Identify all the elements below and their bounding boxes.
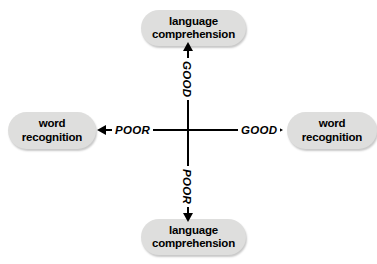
node-word-recognition-left: word recognition [8,112,96,149]
node-bottom-line1: language [152,224,235,238]
arrow-left-icon [97,125,106,135]
node-left-line2: recognition [22,131,82,145]
node-language-comprehension-bottom: language comprehension [141,219,246,255]
node-top-line1: language [152,15,235,29]
axis-label-vertical-bottom: POOR [180,166,194,207]
axis-label-vertical-top: GOOD [180,58,194,100]
node-right-line1: word [302,117,362,131]
arrow-up-icon [183,42,193,51]
axis-label-horizontal-right: GOOD [238,123,280,137]
quadrant-diagram: language comprehension language comprehe… [0,0,377,264]
node-left-line1: word [22,117,82,131]
node-top-line2: comprehension [152,28,235,42]
node-language-comprehension-top: language comprehension [141,10,246,46]
axis-label-horizontal-left: POOR [112,123,153,137]
node-bottom-line2: comprehension [152,237,235,251]
node-word-recognition-right: word recognition [287,112,377,149]
node-right-line2: recognition [302,131,362,145]
arrow-down-icon [183,213,193,222]
